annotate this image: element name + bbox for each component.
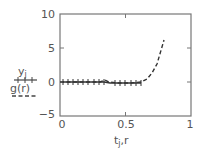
series-g-r [60, 40, 164, 83]
plot-frame [60, 14, 191, 116]
legend-series1-label: yj [18, 65, 27, 79]
x-tick-label-1: 1 [187, 118, 194, 131]
y-tick-label-10: 10 [41, 8, 55, 21]
x-tick-label-05: 0.5 [117, 118, 135, 131]
x-axis-label: tj,r [114, 134, 129, 148]
y-tick-label-5: 5 [48, 42, 55, 55]
x-tick-label-0: 0 [59, 118, 66, 131]
y-tick-label-0: 0 [48, 76, 55, 89]
y-tick-label-neg5: −5 [39, 108, 55, 121]
legend-series2-label: g(r) [10, 82, 30, 95]
series-y-j [63, 82, 141, 83]
chart: 10 5 0 −5 0 0.5 1 tj,r yj g(r) [0, 0, 203, 151]
